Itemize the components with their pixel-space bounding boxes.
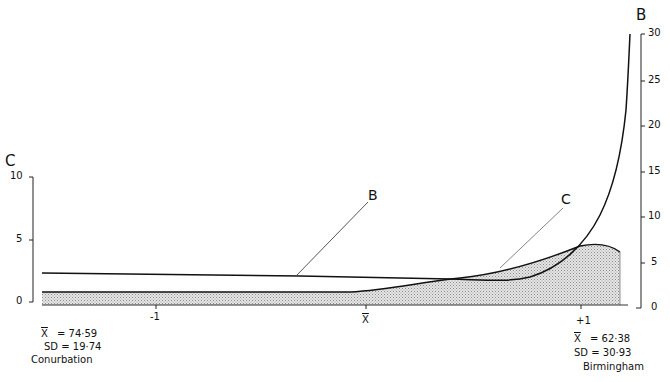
birmingham-name: Birmingham [583,360,644,373]
x-tick-label-plus1: +1 [576,315,591,326]
birmingham-mean-value: = 62·38 [590,333,630,344]
left-tick-label-0: 0 [16,295,22,306]
conurbation-mean: X = 74·59 [41,327,97,340]
series-b-line [42,34,630,280]
birmingham-sd: SD = 30·93 [574,346,631,359]
callout-c-label: C [561,191,571,207]
conurbation-mean-value: = 74·59 [57,328,97,339]
right-tick-label-15: 15 [648,165,661,176]
callout-b-label: B [368,187,378,203]
x-tick-label-mean: X [362,314,369,325]
right-tick-label-20: 20 [648,119,661,130]
conurbation-sd: SD = 19·74 [44,340,101,353]
right-tick-label-0: 0 [651,301,657,312]
callout-b-leader [296,202,368,276]
right-axis-title: B [636,6,646,24]
left-tick-label-5: 5 [16,233,22,244]
left-axis-title: C [5,152,15,170]
right-tick-label-10: 10 [648,210,661,221]
right-tick-label-5: 5 [651,256,657,267]
right-tick-label-25: 25 [648,74,661,85]
right-tick-label-30: 30 [648,27,661,38]
x-tick-label-minus1: -1 [150,311,160,322]
conurbation-name: Conurbation [31,353,93,366]
conurbation-mean-symbol: X [41,328,48,339]
birmingham-mean: X = 62·38 [574,332,630,345]
birmingham-mean-symbol: X [574,333,581,344]
left-tick-label-10: 10 [10,170,23,181]
